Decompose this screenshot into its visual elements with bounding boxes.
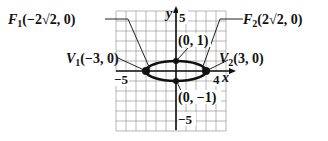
y-axis-label: y	[164, 6, 173, 21]
label-bottom: (0, −1)	[178, 90, 217, 106]
point-v2	[202, 67, 210, 75]
v1-rest: (−3, 0)	[80, 51, 119, 67]
point-top	[173, 58, 179, 64]
label-v2: V2(3, 0)	[219, 51, 264, 68]
v2-rest: (3, 0)	[233, 51, 264, 67]
tick-x-pos: 4	[213, 72, 220, 87]
ellipse-diagram: −5 4 x 5 y −5 (0, 1) (0, −1) F1(−2√2, 0)…	[0, 0, 328, 141]
v1-leader	[118, 58, 144, 70]
label-v1: V1(−3, 0)	[66, 51, 119, 68]
f1-rest: (−2√2, 0)	[22, 12, 75, 28]
f2-main: F	[242, 12, 253, 27]
x-axis-label: x	[221, 70, 229, 85]
point-v1	[142, 67, 150, 75]
f2-rest: (2√2, 0)	[257, 12, 302, 28]
label-top: (0, 1)	[178, 33, 209, 49]
label-f2: F2(2√2, 0)	[242, 12, 303, 29]
top-leader	[177, 48, 188, 60]
point-bottom	[173, 78, 179, 84]
tick-y-pos: 5	[179, 10, 186, 25]
label-f1: F1(−2√2, 0)	[7, 12, 76, 29]
f1-main: F	[7, 12, 18, 27]
x-axis-arrow	[229, 68, 236, 74]
tick-x-neg: −5	[114, 72, 128, 87]
tick-y-neg: −5	[178, 112, 192, 127]
